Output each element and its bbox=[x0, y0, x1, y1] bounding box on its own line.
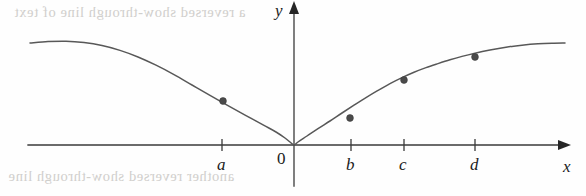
plot-canvas bbox=[0, 0, 586, 196]
origin-label: 0 bbox=[277, 150, 286, 167]
data-point-d bbox=[472, 54, 479, 61]
y-axis-label: y bbox=[275, 2, 283, 19]
axes-group bbox=[28, 1, 571, 186]
x-tick-label-b: b bbox=[346, 156, 355, 173]
function-curve bbox=[30, 41, 565, 145]
math-figure: a reversed show-through line of text ano… bbox=[0, 0, 586, 196]
data-point-c bbox=[401, 77, 408, 84]
y-axis-arrow-icon bbox=[289, 1, 299, 14]
x-tick-label-d: d bbox=[470, 156, 479, 173]
x-axis-arrow-icon bbox=[558, 140, 571, 150]
data-point-b bbox=[347, 115, 354, 122]
data-point-a bbox=[220, 98, 227, 105]
x-tick-label-c: c bbox=[399, 156, 407, 173]
x-axis-label: x bbox=[563, 158, 571, 175]
x-tick-label-a: a bbox=[217, 156, 226, 173]
